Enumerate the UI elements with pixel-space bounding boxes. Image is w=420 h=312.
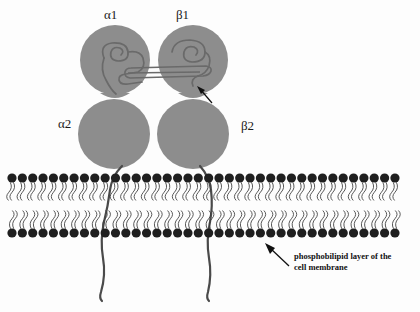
phospholipid-head <box>163 173 172 182</box>
phospholipid-head <box>142 228 151 237</box>
label-subunit-alpha1: α1 <box>104 7 117 23</box>
phospholipid-head <box>287 228 296 237</box>
phospholipid-head <box>7 173 16 182</box>
subunit-beta1 <box>158 25 228 95</box>
phospholipid-head <box>225 228 234 237</box>
phospholipid-head <box>204 173 213 182</box>
phospholipid-head <box>235 228 244 237</box>
subunit-alpha1 <box>80 25 150 95</box>
phospholipid-head <box>370 173 379 182</box>
phospholipid-head <box>152 173 161 182</box>
phospholipid-head <box>18 173 27 182</box>
phospholipid-head <box>297 228 306 237</box>
transmembrane-tail-group <box>100 166 212 301</box>
phospholipid-head <box>277 228 286 237</box>
phospholipid-head <box>339 228 348 237</box>
phospholipid-head <box>152 228 161 237</box>
membrane-caption-line2: cell membrane <box>294 262 418 273</box>
phospholipid-head <box>183 173 192 182</box>
phospholipid-head <box>380 228 389 237</box>
phospholipid-head <box>49 228 58 237</box>
phospholipid-head <box>132 228 141 237</box>
phospholipid-head <box>266 173 275 182</box>
phospholipid-head <box>245 228 254 237</box>
phospholipid-head <box>142 173 151 182</box>
phospholipid-head <box>163 228 172 237</box>
phospholipid-head <box>370 228 379 237</box>
phospholipid-head <box>38 173 47 182</box>
phospholipid-head <box>245 173 254 182</box>
phospholipid-head <box>90 173 99 182</box>
phospholipid-head <box>359 173 368 182</box>
phospholipid-head <box>111 228 120 237</box>
phospholipid-head <box>121 228 130 237</box>
phospholipid-head <box>287 173 296 182</box>
phospholipid-head <box>121 173 130 182</box>
phospholipid-head <box>359 228 368 237</box>
receptor-membrane-diagram: α1 β1 α2 β2 <box>0 0 420 312</box>
phospholipid-head <box>318 173 327 182</box>
label-subunit-alpha2: α2 <box>58 116 71 132</box>
membrane-caption: phosphobilipid layer of the cell membran… <box>294 251 418 273</box>
phospholipid-head <box>111 173 120 182</box>
phospholipid-head <box>214 173 223 182</box>
phospholipid-head <box>349 228 358 237</box>
label-subunit-beta2: β2 <box>241 118 254 134</box>
phospholipid-head <box>18 228 27 237</box>
phospholipid-head <box>318 228 327 237</box>
phospholipid-head <box>339 173 348 182</box>
phospholipid-head <box>328 228 337 237</box>
phospholipid-head <box>390 228 399 237</box>
label-subunit-beta1: β1 <box>176 7 189 23</box>
phospholipid-head <box>256 228 265 237</box>
phospholipid-head <box>70 173 79 182</box>
phospholipid-head <box>183 228 192 237</box>
phospholipid-head <box>380 173 389 182</box>
phospholipid-head <box>308 173 317 182</box>
phospholipid-head <box>297 173 306 182</box>
phospholipid-head <box>38 228 47 237</box>
phospholipid-head <box>214 228 223 237</box>
subunit-alpha2 <box>78 99 150 169</box>
phospholipid-head <box>328 173 337 182</box>
phospholipid-head <box>59 173 68 182</box>
phospholipid-head <box>101 173 110 182</box>
phospholipid-bilayer <box>7 173 401 237</box>
phospholipid-head <box>235 173 244 182</box>
phospholipid-head <box>173 228 182 237</box>
phospholipid-head <box>349 173 358 182</box>
phospholipid-head <box>225 173 234 182</box>
phospholipid-head <box>390 173 399 182</box>
subunit-beta2 <box>157 99 229 169</box>
phospholipid-head <box>70 228 79 237</box>
phospholipid-head <box>132 173 141 182</box>
phospholipid-head <box>173 173 182 182</box>
phospholipid-head <box>80 173 89 182</box>
phospholipid-head <box>49 173 58 182</box>
phospholipid-head <box>28 173 37 182</box>
phospholipid-head <box>59 228 68 237</box>
phospholipid-head <box>194 228 203 237</box>
phospholipid-head <box>90 228 99 237</box>
phospholipid-head <box>204 228 213 237</box>
phospholipid-head <box>194 173 203 182</box>
phospholipid-head <box>308 228 317 237</box>
phospholipid-head <box>266 228 275 237</box>
phospholipid-head <box>101 228 110 237</box>
phospholipid-head <box>80 228 89 237</box>
phospholipid-head <box>277 173 286 182</box>
phospholipid-head <box>256 173 265 182</box>
membrane-pointer-arrow <box>265 243 289 266</box>
phospholipid-head <box>28 228 37 237</box>
membrane-caption-line1: phosphobilipid layer of the <box>294 251 418 262</box>
phospholipid-head <box>7 228 16 237</box>
